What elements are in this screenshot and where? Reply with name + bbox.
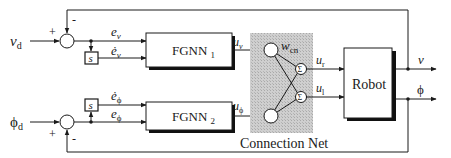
u-l-label: ul bbox=[316, 81, 325, 97]
top-junction-plus-sign: + bbox=[49, 25, 56, 39]
bottom-summing-junction bbox=[60, 115, 74, 129]
e-phi-dot-label: ėϕ bbox=[111, 88, 122, 105]
top-junction-minus-sign: - bbox=[72, 13, 76, 27]
e-v-dot-label: ėv bbox=[111, 43, 121, 60]
bottom-junction-minus-sign: - bbox=[72, 132, 76, 146]
e-phi-label: eϕ bbox=[111, 106, 122, 123]
heading-output-label: ϕ bbox=[417, 82, 424, 97]
connection-net-label: Connection Net bbox=[240, 136, 328, 151]
control-block-diagram: vd + - s ev ėv FGNN1 uv ϕd + - s ėϕ eϕ F… bbox=[0, 0, 451, 158]
cn-input-node-top bbox=[264, 43, 278, 57]
cn-sum-node-bottom-symbol: Σ bbox=[298, 93, 303, 102]
velocity-takeoff-dot bbox=[406, 67, 410, 71]
heading-reference-label: ϕd bbox=[10, 114, 23, 132]
u-r-label: ur bbox=[316, 53, 325, 69]
cn-input-node-bottom bbox=[264, 109, 278, 123]
top-summing-junction bbox=[60, 34, 74, 48]
bottom-junction-plus-sign: + bbox=[49, 127, 56, 141]
robot-label: Robot bbox=[352, 77, 386, 92]
u-phi-label: uϕ bbox=[233, 99, 243, 115]
top-derivative-block-label: s bbox=[89, 52, 93, 64]
e-v-label: ev bbox=[111, 24, 121, 41]
heading-takeoff-dot bbox=[406, 97, 410, 101]
bottom-derivative-block-label: s bbox=[89, 99, 93, 111]
velocity-output-label: v bbox=[418, 52, 424, 67]
u-v-label: uv bbox=[233, 35, 243, 51]
velocity-reference-label: vd bbox=[10, 33, 22, 51]
cn-sum-node-top-symbol: Σ bbox=[298, 65, 303, 74]
